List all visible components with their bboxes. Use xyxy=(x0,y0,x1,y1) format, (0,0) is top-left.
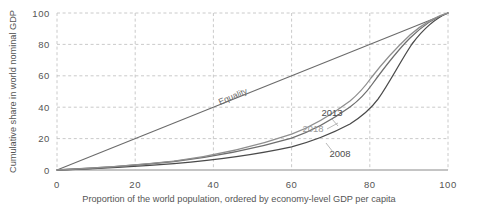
lorenz-curve-chart: 100 80 60 40 20 0 0 20 40 60 80 100 Prop… xyxy=(0,0,478,208)
y-tick-label-100: 100 xyxy=(32,8,50,19)
y-tick-label-20: 20 xyxy=(38,133,50,144)
x-tick-label-0: 0 xyxy=(54,179,60,190)
annotation-2018: 2018 xyxy=(302,123,323,134)
x-tick-label-40: 40 xyxy=(208,179,220,190)
y-tick-label-40: 40 xyxy=(38,102,50,113)
x-tick-label-20: 20 xyxy=(129,179,141,190)
y-tick-label-0: 0 xyxy=(44,165,50,176)
y-tick-label-80: 80 xyxy=(38,39,50,50)
x-tick-label-60: 60 xyxy=(286,179,298,190)
y-tick-label-60: 60 xyxy=(38,70,50,81)
x-axis-title: Proportion of the world population, orde… xyxy=(82,194,396,204)
x-tick-label-80: 80 xyxy=(364,179,376,190)
annotation-2008: 2008 xyxy=(329,148,350,159)
annotation-2013: 2013 xyxy=(321,107,342,118)
x-tick-label-100: 100 xyxy=(439,179,457,190)
chart-svg: 100 80 60 40 20 0 0 20 40 60 80 100 Prop… xyxy=(0,0,478,208)
y-axis-title: Cumulative share in world nominal GDP xyxy=(8,10,18,173)
